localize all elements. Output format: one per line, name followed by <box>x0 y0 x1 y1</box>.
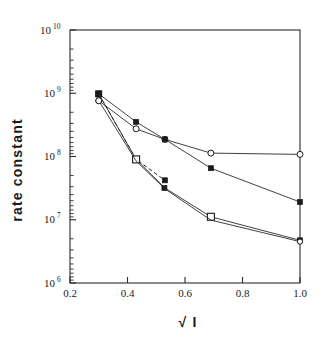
data-point <box>96 91 102 97</box>
x-tick-label-4: 1.0 <box>293 287 307 299</box>
y-tick-label-10e6: 10 <box>44 277 56 289</box>
series-open-square-lower-line <box>99 94 300 240</box>
y-tick-label-10e10: 10 <box>40 24 52 36</box>
series-open-circle-lower <box>96 98 303 245</box>
data-point <box>96 98 102 104</box>
y-tick-label-10e7: 10 <box>44 213 56 225</box>
data-point <box>298 200 303 205</box>
x-axis: 0.2 0.4 0.6 0.8 1.0 <box>63 277 307 299</box>
y-tick-label-10e8: 10 <box>44 150 56 162</box>
plot-frame <box>70 30 300 283</box>
series-filled-square-dashed <box>99 94 168 183</box>
series-filled-square-upper-line <box>99 94 300 202</box>
x-tick-label-2: 0.6 <box>178 287 192 299</box>
data-point <box>208 150 214 156</box>
y-tick-exp-10e10: 10 <box>53 22 61 31</box>
y-tick-exp-10e8: 8 <box>57 148 61 157</box>
x-axis-title: √ I <box>178 314 197 330</box>
y-tick-exp-10e7: 7 <box>57 211 61 220</box>
series-filled-square-upper <box>96 91 303 205</box>
y-tick-exp-10e9: 9 <box>57 85 61 94</box>
y-tick-label-10e9: 10 <box>44 87 56 99</box>
series-filled-square-dashed-line <box>99 94 165 180</box>
series-open-circle-lower-line <box>99 101 300 242</box>
rate-constant-vs-sqrt-I-chart: 10 10 10 9 10 8 10 7 10 6 <box>0 0 326 342</box>
x-tick-label-1: 0.4 <box>121 287 135 299</box>
data-point <box>134 119 139 124</box>
x-tick-label-3: 0.8 <box>236 287 250 299</box>
data-point <box>208 166 213 171</box>
data-point <box>297 239 302 244</box>
data-point <box>162 178 167 183</box>
chart-figure: 10 10 10 9 10 8 10 7 10 6 <box>0 0 326 342</box>
data-point <box>207 213 214 220</box>
series-open-square-lower <box>96 91 303 243</box>
y-axis-title: rate constant <box>9 118 25 222</box>
x-tick-label-0: 0.2 <box>63 287 77 299</box>
data-point <box>162 137 167 142</box>
y-tick-exp-10e6: 6 <box>57 275 61 284</box>
data-point <box>297 151 303 157</box>
series-open-circle-upper <box>96 98 303 158</box>
data-point <box>133 126 139 132</box>
y-axis: 10 10 10 9 10 8 10 7 10 6 <box>40 22 76 289</box>
